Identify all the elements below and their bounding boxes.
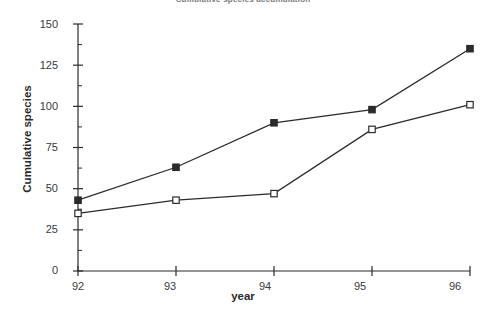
series-lines <box>78 49 470 214</box>
plot-area <box>0 0 486 313</box>
series-markers <box>75 46 473 217</box>
chart-container: Cumulative species accumulation Cumulati… <box>0 0 486 313</box>
